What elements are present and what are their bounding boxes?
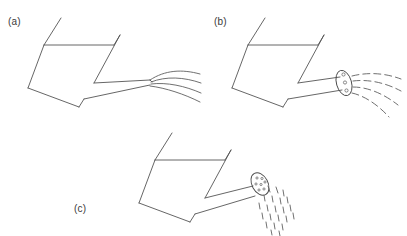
watering-can-figure <box>0 0 407 236</box>
water-streams-b <box>352 74 401 117</box>
can-body-c <box>139 133 255 222</box>
rose-head-c <box>247 170 272 199</box>
panel-b <box>232 18 401 117</box>
can-body-b <box>232 18 342 107</box>
panel-label-a: (a) <box>8 16 21 27</box>
can-body-a <box>28 18 152 107</box>
panel-a <box>28 18 201 107</box>
panel-label-b: (b) <box>214 16 227 27</box>
water-streams-a <box>150 71 201 102</box>
panel-c <box>139 133 294 236</box>
rose-head-b <box>333 68 355 97</box>
water-droplets-c <box>259 186 294 236</box>
panel-label-c: (c) <box>74 203 86 214</box>
